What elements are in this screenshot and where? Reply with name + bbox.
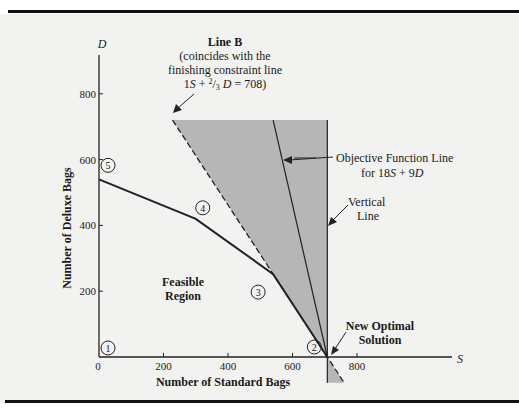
x-tick-label: 200 [155,360,172,372]
optimal-arrowhead [331,346,339,355]
x-tick-label: 600 [284,360,301,372]
vertical-pointer [333,205,348,220]
y-tick-label: 800 [80,88,97,100]
corner-marker-label: 3 [256,287,261,298]
y-axis-variable: D [97,37,107,51]
corner-point-1: 1 [101,341,115,355]
x-tick-label: 0 [95,360,101,372]
corner-marker-label: 5 [106,160,111,171]
y-axis-title: Number of Deluxe Bags [60,167,74,289]
corner-point-5: 5 [101,158,115,172]
x-tick-label: 400 [220,360,237,372]
corner-marker-label: 4 [200,203,205,214]
line-b-desc-2: finishing constraint line [168,63,282,77]
corner-marker-label: 1 [106,343,111,354]
y-tick-label: 400 [80,219,97,231]
x-axis-title: Number of Standard Bags [156,375,290,389]
line-b-title: Line B [208,35,242,49]
y-tick-label: 600 [80,154,97,166]
corner-marker-label: 2 [312,342,317,353]
optimal-label-2: Solution [359,333,402,347]
line-b-equation: 1S + 2/3 D = 708) [184,77,267,92]
x-tick-label: 800 [349,360,366,372]
chart: 0200400600800 200400600800 D S Number of… [0,0,519,414]
feasible-label-2: Region [165,289,201,303]
corner-point-3: 3 [251,285,265,299]
objective-label-2: for 18S + 9D [361,166,424,180]
optimal-label-1: New Optimal [346,319,415,333]
y-tick-label: 200 [80,285,97,297]
corner-point-4: 4 [196,201,210,215]
vertical-label-1: Vertical [348,195,386,209]
x-ticks: 0200400600800 [95,353,366,372]
objective-label-1: Objective Function Line [336,151,453,165]
corner-point-2: 2 [307,340,321,354]
x-axis-variable: S [457,352,463,366]
feasible-label-1: Feasible [162,275,205,289]
vertical-label-2: Line [357,209,379,223]
line-b-desc-1: (coincides with the [179,49,270,63]
line-b-arrow [178,94,194,108]
optimal-pointer [335,332,346,349]
vertical-arrowhead [328,217,337,226]
